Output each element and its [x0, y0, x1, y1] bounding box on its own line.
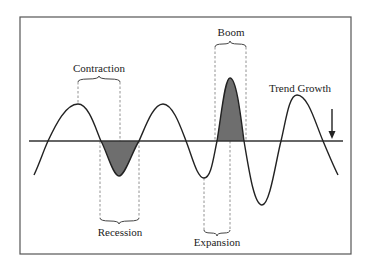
- boom-label: Boom: [218, 26, 245, 38]
- contraction-label: Contraction: [73, 62, 125, 74]
- recession-label: Recession: [98, 226, 143, 238]
- trend-growth-label: Trend Growth: [269, 82, 332, 94]
- diagram-frame: [20, 17, 351, 254]
- expansion-label: Expansion: [194, 236, 241, 248]
- business-cycle-diagram: Contraction Boom Trend Growth Recession …: [0, 0, 370, 268]
